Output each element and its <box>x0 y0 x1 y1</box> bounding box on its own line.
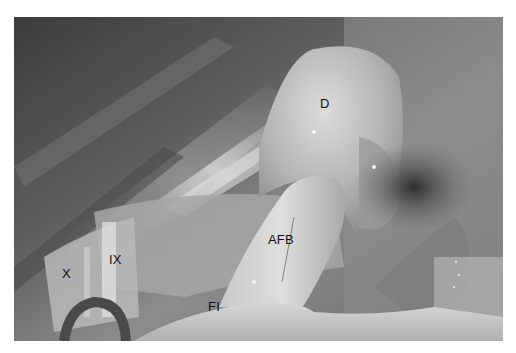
label-FI: FI <box>208 300 220 313</box>
label-X: X <box>62 267 71 280</box>
label-IX: IX <box>109 253 122 266</box>
label-AFB: AFB <box>268 233 294 246</box>
photo-tissue-rendering <box>14 17 503 341</box>
surgical-photograph <box>14 17 503 341</box>
label-D: D <box>320 97 330 110</box>
